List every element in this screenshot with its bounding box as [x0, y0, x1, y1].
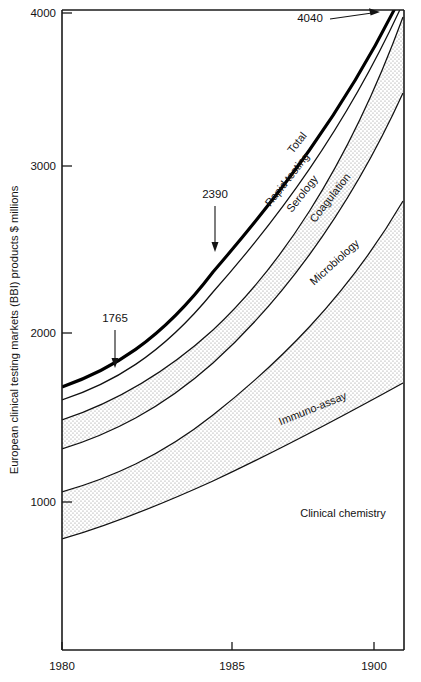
series-label-clinical-chemistry: Clinical chemistry	[300, 507, 386, 519]
annotation-4040-label: 4040	[297, 12, 323, 24]
annotation-4040-leader	[330, 13, 372, 19]
y-tick-label-3000: 3000	[30, 160, 56, 172]
x-tick-label-1990: 1900	[361, 660, 387, 672]
y-axis-title: European clinical testing markets (BBI) …	[8, 185, 20, 474]
plot-bands	[62, 0, 403, 650]
series-label-total: Total	[285, 130, 309, 156]
y-tick-label-1000: 1000	[30, 496, 56, 508]
y-tick-label-2000: 2000	[30, 327, 56, 339]
annotation-1765-label: 1765	[102, 312, 128, 324]
y-tick-label-4000: 4000	[30, 7, 56, 19]
annotation-2390-arrowhead	[212, 242, 219, 252]
chart-figure: 4000 3000 2000 1000 1980 1985 1900 Europ…	[0, 0, 421, 682]
x-tick-label-1985: 1985	[219, 660, 245, 672]
area-chart-svg: 4000 3000 2000 1000 1980 1985 1900 Europ…	[0, 0, 421, 682]
annotation-2390-label: 2390	[202, 188, 228, 200]
annotation-2390: 2390	[202, 188, 228, 252]
x-tick-label-1980: 1980	[49, 660, 75, 672]
